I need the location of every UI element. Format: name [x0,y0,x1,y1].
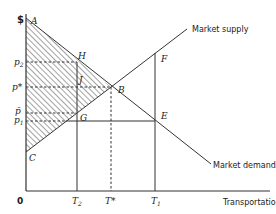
t1-label: T1 [151,196,161,207]
p2-label: p2 [14,57,24,68]
point-e-label: E [160,111,168,121]
p1-label: p1 [14,115,24,126]
point-f-label: F [160,54,168,64]
market-supply-label: Market supply [192,25,249,34]
x-axis-label: Transportation [222,198,276,207]
supply-demand-diagram: $ 0 Transportation Market supply Market … [0,0,276,214]
surplus-hatched-area [26,18,111,152]
origin-label: 0 [17,196,23,206]
point-h-label: H [77,51,86,61]
point-b-label: B [117,85,125,95]
point-a-label: A [30,16,38,26]
market-demand-label: Market demand [213,161,276,170]
t-star-label: T* [105,196,116,206]
t2-label: T2 [72,196,82,207]
point-c-label: C [29,153,36,163]
point-g-label: G [80,113,87,123]
p-star-label: p* [12,82,23,92]
y-axis-label: $ [17,14,24,25]
